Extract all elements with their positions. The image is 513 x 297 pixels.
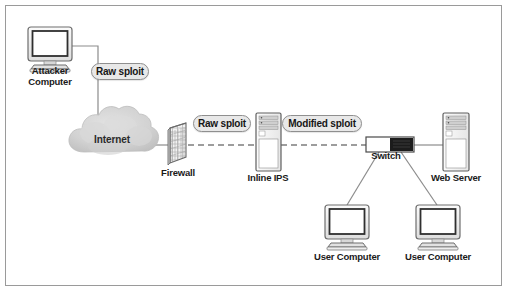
inline-ips-label: Inline IPS bbox=[248, 173, 289, 184]
attacker-computer-label: Attacker Computer bbox=[28, 66, 71, 87]
internet-label: Internet bbox=[94, 134, 130, 145]
annotation-modified-sploit: Modified sploit bbox=[282, 115, 362, 132]
server-tower-icon-ips bbox=[256, 113, 281, 171]
switch-label: Switch bbox=[371, 150, 400, 161]
firewall-label: Firewall bbox=[161, 168, 195, 179]
link-attacker-to-internet bbox=[72, 46, 98, 126]
server-tower-icon-webserver bbox=[443, 113, 469, 171]
network-diagram-figure: Internet Attacker Computer Firewall Inli… bbox=[0, 0, 513, 297]
crt-monitor-icon-user-left bbox=[325, 205, 369, 250]
brick-wall-icon bbox=[168, 123, 186, 165]
crt-monitor-icon-user-right bbox=[416, 205, 460, 250]
user-computer-left-label: User Computer bbox=[314, 252, 380, 263]
cloud-icon bbox=[69, 106, 159, 155]
user-computer-right-label: User Computer bbox=[405, 252, 471, 263]
annotation-raw-sploit-top: Raw sploit bbox=[91, 63, 149, 80]
web-server-label: Web Server bbox=[431, 173, 481, 184]
annotation-raw-sploit-mid: Raw sploit bbox=[193, 115, 251, 132]
